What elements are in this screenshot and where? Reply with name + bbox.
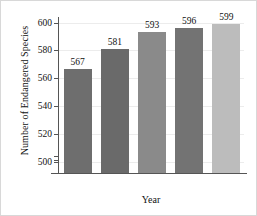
y-tick-label: 540 (38, 101, 52, 111)
y-tick-label: 560 (38, 73, 52, 83)
x-axis-line (51, 173, 247, 174)
bar[interactable] (138, 32, 166, 173)
y-tick-label: 600 (38, 18, 52, 28)
plot-area: 500520540560580600 567199858119995932000… (58, 17, 244, 173)
bar[interactable] (175, 28, 203, 173)
y-tick-label: 520 (38, 129, 52, 139)
bar-value-label: 596 (182, 16, 196, 26)
bar-value-label: 599 (219, 12, 233, 22)
bar-value-label: 581 (108, 37, 122, 47)
y-axis-title: Number of Endangered Species (19, 6, 30, 176)
y-tick-label: 500 (38, 157, 52, 167)
bar-value-label: 593 (145, 20, 159, 30)
y-tick-label: 580 (38, 45, 52, 55)
bar[interactable] (64, 69, 92, 173)
bar-value-label: 567 (70, 57, 84, 67)
bar-chart-figure: Number of Endangered Species 50052054056… (0, 0, 257, 216)
x-axis-title: Year (58, 194, 244, 205)
bar[interactable] (212, 24, 240, 173)
bar[interactable] (101, 49, 129, 173)
bars-layer: 56719985811999593200059620015992003 (58, 17, 244, 173)
